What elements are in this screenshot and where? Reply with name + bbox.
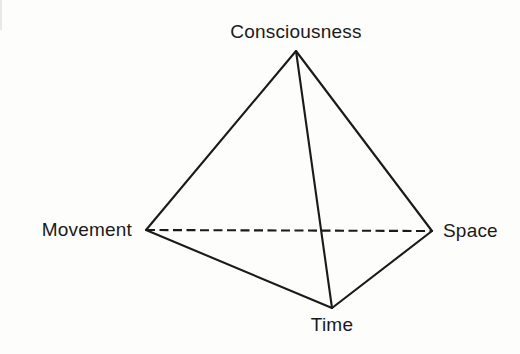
tetrahedron-svg: [0, 0, 520, 354]
vertex-label-space: Space: [443, 220, 498, 242]
edge-consciousness-time: [296, 51, 332, 308]
tetrahedron-diagram: Consciousness Movement Space Time: [0, 0, 520, 354]
vertex-label-time: Time: [282, 314, 382, 336]
edge-consciousness-movement: [146, 51, 296, 230]
vertex-label-consciousness: Consciousness: [36, 21, 520, 43]
vertex-label-movement: Movement: [0, 219, 132, 241]
edge-movement-space-dashed: [146, 230, 432, 231]
edge-movement-time: [146, 230, 332, 308]
edge-space-time: [332, 231, 432, 308]
